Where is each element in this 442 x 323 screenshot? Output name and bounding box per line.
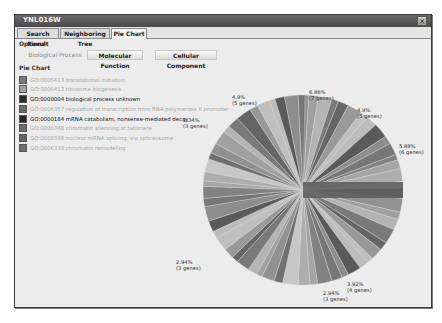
pie-slice-label: 2.94%(3 genes) xyxy=(176,259,201,271)
pie-slice-label: 5.88%(6 genes) xyxy=(399,143,424,155)
pie-chart xyxy=(0,0,442,323)
pie-slice-label: 4.9%(5 genes) xyxy=(357,107,382,119)
pie-slice-label: 3.92%(4 genes) xyxy=(347,281,372,293)
pie-slice-label: 2.94%(3 genes) xyxy=(323,290,348,302)
pie-slice-label: 6.86%(7 genes) xyxy=(309,89,334,101)
pie-slice-highlight[interactable] xyxy=(303,182,403,198)
pie-slice-label: 4.9%(5 genes) xyxy=(232,94,257,106)
pie-slice-label: 2.34%(3 genes) xyxy=(183,117,208,129)
